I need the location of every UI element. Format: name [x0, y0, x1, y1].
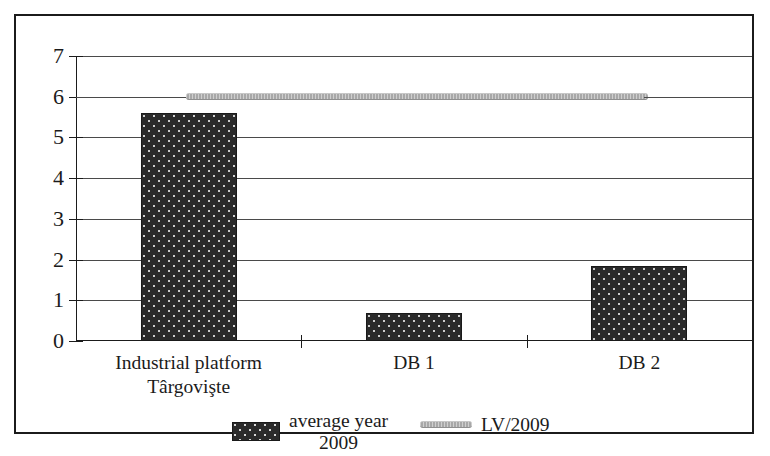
legend-entry-lv-2009[interactable]: LV/2009 [420, 414, 550, 436]
y-tick-label-2: 2 [53, 249, 64, 271]
y-tick-1 [69, 300, 83, 301]
bar-2 [366, 313, 462, 342]
gridline-7 [76, 56, 752, 57]
category-label-3: DB 2 [499, 351, 770, 375]
y-tick-label-1: 1 [53, 289, 64, 311]
y-tick-label-0: 0 [53, 330, 64, 352]
legend-label-average-year-2009: average year 2009 [289, 410, 388, 454]
category-separator-2 [527, 335, 528, 348]
y-tick-2 [69, 260, 83, 261]
legend-swatch-bar-icon [232, 422, 280, 441]
lv-line-left-stub [76, 97, 188, 98]
y-tick-0 [69, 341, 83, 342]
category-label-line1: DB 2 [499, 351, 770, 375]
lv-line-right-stub [644, 97, 752, 98]
y-tick-label-4: 4 [53, 167, 64, 189]
y-tick-label-7: 7 [53, 45, 64, 67]
y-tick-7 [69, 56, 83, 57]
legend-swatch-line-icon [420, 421, 472, 428]
y-axis-line [76, 56, 77, 341]
y-tick-label-6: 6 [53, 86, 64, 108]
chart-legend: average year 2009 LV/2009 [16, 404, 756, 450]
y-tick-5 [69, 137, 83, 138]
chart-figure-frame: 01234567 Industrial platformTârgovişteDB… [14, 14, 754, 434]
category-label-line2: Târgovişte [49, 375, 329, 399]
lv-line-series [186, 93, 648, 100]
y-tick-label-5: 5 [53, 126, 64, 148]
legend-entry-average-year-2009[interactable]: average year 2009 [232, 410, 388, 454]
legend-label-lv-2009: LV/2009 [481, 414, 550, 436]
y-tick-3 [69, 219, 83, 220]
bar-1 [141, 113, 237, 341]
plot-area: 01234567 [76, 56, 752, 341]
y-tick-4 [69, 178, 83, 179]
category-separator-1 [301, 335, 302, 348]
y-tick-label-3: 3 [53, 208, 64, 230]
bar-3 [591, 266, 687, 341]
